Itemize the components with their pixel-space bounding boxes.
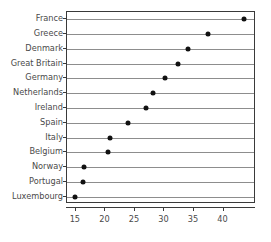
category-label: Great Britain [11,58,63,68]
data-point [205,32,210,37]
category-tick [63,92,66,93]
data-point [80,179,85,184]
data-point [150,91,155,96]
category-tick [63,77,66,78]
category-label: Spain [40,117,63,127]
category-tick [63,137,66,138]
category-tick [63,196,66,197]
row-line [67,78,254,79]
plot-area [66,11,255,203]
x-axis-tick-label: 25 [129,214,139,224]
category-label: Germany [25,72,63,82]
x-axis-tick [75,207,76,211]
data-point [105,150,110,155]
x-axis-tick-label: 40 [217,214,227,224]
category-label: Norway [32,161,63,171]
x-axis-tick-label: 20 [99,214,109,224]
data-point [163,76,168,81]
row-line [67,19,254,20]
row-line [67,197,254,198]
row-line [67,152,254,153]
data-point [176,61,181,66]
data-point [81,165,86,170]
category-label: Portugal [29,176,63,186]
x-axis-tick-label: 30 [158,214,168,224]
row-line [67,64,254,65]
category-tick [63,107,66,108]
category-tick [63,122,66,123]
row-line [67,34,254,35]
x-axis-tick-label: 15 [70,214,80,224]
category-tick [63,48,66,49]
x-axis-tick [104,207,105,211]
row-line [67,167,254,168]
category-label: Ireland [35,102,63,112]
data-point [73,194,78,199]
x-axis-tick [223,207,224,211]
row-line [67,93,254,94]
data-point [107,135,112,140]
category-tick [63,33,66,34]
row-line [67,182,254,183]
category-tick [63,151,66,152]
x-axis-line [66,207,255,208]
row-line [67,138,254,139]
row-line [67,123,254,124]
category-label: Netherlands [13,87,63,97]
data-point [125,120,130,125]
category-tick [63,18,66,19]
x-axis-tick [163,207,164,211]
category-tick [63,166,66,167]
row-line [67,108,254,109]
data-point [143,106,148,111]
category-label: France [36,13,63,23]
row-line [67,49,254,50]
data-point [242,17,247,22]
category-label: Luxembourg [12,191,63,201]
category-label: Belgium [29,146,63,156]
x-axis-tick [193,207,194,211]
category-tick [63,63,66,64]
category-label: Greece [34,28,63,38]
category-label: Denmark [25,43,63,53]
dot-plot-chart: FranceGreeceDenmarkGreat BritainGermanyN… [0,0,271,242]
x-axis-tick [134,207,135,211]
data-point [186,46,191,51]
category-tick [63,181,66,182]
category-label: Italy [45,132,63,142]
category-axis-labels: FranceGreeceDenmarkGreat BritainGermanyN… [0,0,63,242]
x-axis-tick-label: 35 [188,214,198,224]
